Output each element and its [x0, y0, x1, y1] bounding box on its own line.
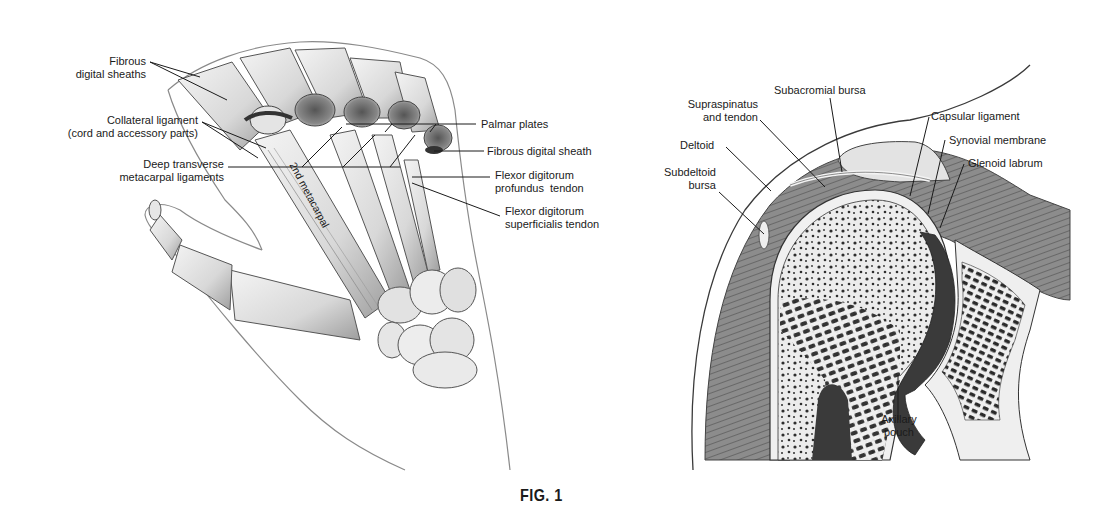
- label-line: Flexor digitorum: [505, 205, 599, 218]
- label-line: profundus tendon: [495, 182, 584, 195]
- label-line: metacarpal ligaments: [100, 171, 224, 184]
- label-glenoid-labrum: Glenoid labrum: [968, 157, 1043, 170]
- shoulder-illustration: [692, 65, 1070, 470]
- label-line: superficialis tendon: [505, 218, 599, 231]
- label-line: pouch: [872, 426, 926, 439]
- label-line: Glenoid labrum: [968, 157, 1043, 170]
- label-line: Subdeltoid: [650, 166, 716, 179]
- figure-canvas: [0, 0, 1117, 531]
- label-fibrous-digital-sheath: Fibrous digital sheath: [487, 145, 592, 158]
- label-palmar-plates: Palmar plates: [481, 118, 548, 131]
- label-fibrous-digital-sheaths: Fibrous digital sheaths: [56, 55, 146, 81]
- label-capsular-ligament: Capsular ligament: [931, 110, 1020, 123]
- label-line: Palmar plates: [481, 118, 548, 131]
- label-line: Synovial membrane: [949, 134, 1046, 147]
- label-subacromial-bursa: Subacromial bursa: [774, 84, 866, 97]
- label-axillary-pouch: Axillary pouch: [872, 413, 926, 439]
- label-line: and tendon: [660, 111, 758, 124]
- label-line: Deltoid: [680, 139, 714, 152]
- label-line: Fibrous: [56, 55, 146, 68]
- label-line: Deep transverse: [100, 158, 224, 171]
- label-line: Axillary: [872, 413, 926, 426]
- label-deltoid: Deltoid: [680, 139, 714, 152]
- label-line: bursa: [650, 179, 716, 192]
- label-synovial-membrane: Synovial membrane: [949, 134, 1046, 147]
- label-subdeltoid-bursa: Subdeltoid bursa: [650, 166, 716, 192]
- label-flexor-digitorum-profundus: Flexor digitorum profundus tendon: [495, 169, 584, 195]
- label-line: Capsular ligament: [931, 110, 1020, 123]
- label-deep-transverse-metacarpal-ligaments: Deep transverse metacarpal ligaments: [100, 158, 224, 184]
- label-line: (cord and accessory parts): [40, 127, 198, 140]
- label-line: Subacromial bursa: [774, 84, 866, 97]
- hand-illustration: [145, 42, 510, 470]
- label-supraspinatus-and-tendon: Supraspinatus and tendon: [660, 98, 758, 124]
- figure-caption: FIG. 1: [520, 486, 563, 506]
- label-line: Flexor digitorum: [495, 169, 584, 182]
- label-line: Collateral ligament: [40, 114, 198, 127]
- label-flexor-digitorum-superficialis: Flexor digitorum superficialis tendon: [505, 205, 599, 231]
- label-line: Supraspinatus: [660, 98, 758, 111]
- label-collateral-ligament: Collateral ligament (cord and accessory …: [40, 114, 198, 140]
- label-line: digital sheaths: [56, 68, 146, 81]
- label-line: Fibrous digital sheath: [487, 145, 592, 158]
